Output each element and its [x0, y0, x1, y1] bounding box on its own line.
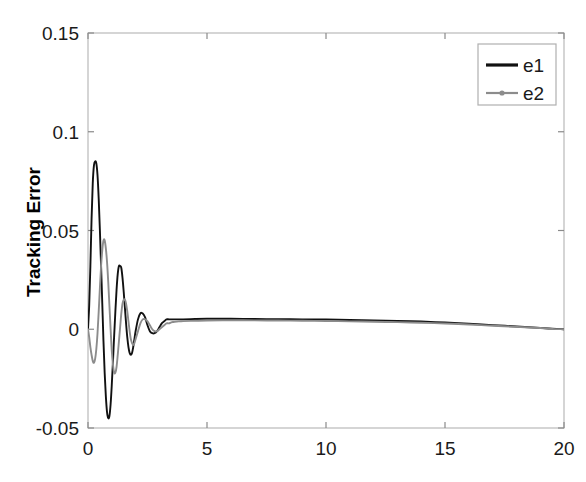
y-tick-label: -0.05 [36, 418, 79, 439]
y-tick-label: 0 [68, 319, 79, 340]
x-tick-label: 20 [553, 438, 574, 459]
legend[interactable]: e1e2 [478, 44, 556, 105]
y-tick-label: 0.1 [53, 122, 79, 143]
x-tick-label: 10 [315, 438, 336, 459]
y-tick-label: 0.15 [42, 23, 79, 44]
x-tick-label: 5 [202, 438, 213, 459]
legend-label-e1: e1 [523, 55, 544, 76]
figure-canvas: Tracking Error 05101520 -0.0500.050.10.1… [0, 0, 586, 482]
y-tick-label: 0.05 [42, 221, 79, 242]
x-tick-label: 0 [83, 438, 94, 459]
y-axis-title: Tracking Error [23, 166, 44, 296]
tracking-error-chart: Tracking Error 05101520 -0.0500.050.10.1… [0, 0, 586, 482]
legend-label-e2: e2 [523, 83, 544, 104]
x-tick-label: 15 [434, 438, 455, 459]
